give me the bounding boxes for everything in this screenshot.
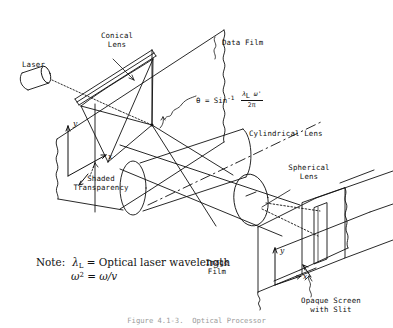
equation-exponent: -1 (227, 94, 234, 101)
left-plane-x-axis-label: x (108, 152, 112, 161)
note-line1-text: Optical laser wavelength (99, 256, 230, 268)
label-conical-lens: Conical Lens (92, 31, 142, 50)
figure-caption: Figure 4.1-3. Optical Processor (0, 316, 393, 328)
theta-angle-marker (151, 96, 197, 128)
note-block: Note:λL = Optical laser wavelength ω2 = … (36, 256, 230, 282)
left-plane-y-axis-label: y (73, 119, 77, 128)
equation-equals: = (205, 96, 209, 105)
left-plane-axes (66, 126, 106, 176)
note-line2-equals: = (87, 270, 96, 282)
label-data-film: Data Film (222, 38, 263, 47)
label-opaque-screen-with-slit: Opaque Screen with Slit (283, 296, 379, 315)
theta-symbol: θ (196, 96, 200, 105)
note-line-2: ω2 = ω/v (36, 270, 230, 282)
light-cone (81, 59, 153, 162)
theta-equation: θ = Sin-1 λL ω' 2π (196, 92, 263, 110)
note-line2-text: ω/v (99, 270, 117, 282)
label-cylindrical-lens: Cylindrical Lens (249, 129, 323, 138)
note-omega-superscript: 2 (79, 270, 83, 278)
note-lambda-symbol: λ (72, 256, 79, 268)
image-plane-y-axis-label: y (280, 246, 284, 255)
note-prefix: Note: (36, 256, 65, 268)
label-shaded-transparency: Shaded Transparency (62, 174, 140, 193)
image-plane-x-axis-label: x (303, 272, 307, 281)
conical-lens (75, 50, 156, 105)
equation-numerator: λL ω' (241, 91, 263, 101)
label-spherical-lens: Spherical Lens (281, 163, 337, 182)
equation-function: Sin (214, 96, 227, 105)
note-line-1: Note:λL = Optical laser wavelength (36, 256, 230, 270)
label-laser: Laser (22, 60, 45, 69)
equation-denominator: 2π (241, 101, 263, 109)
note-lambda-subscript: L (79, 262, 84, 270)
note-line1-equals: = (87, 256, 96, 268)
equation-fraction: λL ω' 2π (241, 91, 263, 109)
optical-processor-figure: Laser Conical Lens Data Film Shaded Tran… (0, 0, 393, 328)
